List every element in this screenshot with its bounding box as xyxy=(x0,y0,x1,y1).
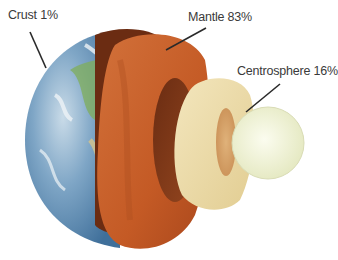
mantle-label: Mantle 83% xyxy=(188,10,252,24)
crust-label: Crust 1% xyxy=(8,8,58,22)
centrosphere-label: Centrosphere 16% xyxy=(237,64,338,78)
inner-core xyxy=(232,107,304,179)
crust-leader-line xyxy=(30,32,46,68)
